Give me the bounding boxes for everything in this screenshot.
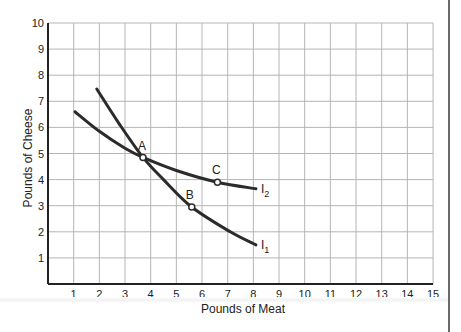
point-label-a: A [138,139,146,153]
y-tick-label: 9 [38,43,44,55]
y-tick-label: 5 [38,148,44,160]
curve-i2 [75,112,256,189]
indifference-curves: I1I2 [75,89,269,255]
page-edge-line [448,0,450,332]
x-axis-label: Pounds of Meat [201,302,286,316]
point-b [189,204,195,210]
y-tick-label: 3 [38,200,44,212]
y-tick-label: 2 [38,226,44,238]
indifference-curve-chart: 123456789101112131415 12345678910 I1I2 A… [0,0,461,332]
y-tick-label: 6 [38,121,44,133]
y-tick-label: 8 [38,69,44,81]
y-axis-label: Pounds of Cheese [21,108,35,207]
y-tick-label: 1 [38,252,44,264]
point-label-b: B [186,188,194,202]
point-c [214,179,220,185]
curve-label-i1: I1 [261,238,269,255]
grid-lines [48,23,433,284]
scan-shadow [0,297,449,303]
y-tick-label: 4 [38,174,44,186]
y-tick-label: 10 [32,17,44,29]
curve-label-i2: I2 [261,182,269,199]
point-a [140,154,146,160]
point-label-c: C [212,163,221,177]
y-tick-label: 7 [38,95,44,107]
